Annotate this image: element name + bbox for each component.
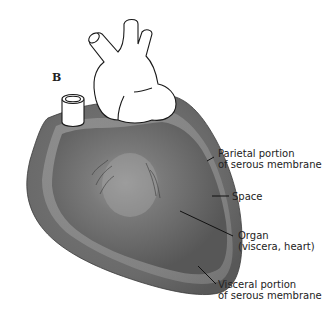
label-parietal-portion: Parietal portion of serous membrane (218, 148, 322, 170)
organ-highlight (102, 153, 158, 217)
label-organ: Organ (viscera, heart) (238, 230, 315, 252)
panel-letter: B (52, 71, 61, 84)
label-visceral-portion: Visceral portion of serous membrane (218, 279, 322, 301)
great-vessels (62, 20, 176, 127)
label-space: Space (232, 191, 262, 202)
serous-membrane-diagram: B Parietal portion of serous membrane Sp… (0, 0, 329, 317)
